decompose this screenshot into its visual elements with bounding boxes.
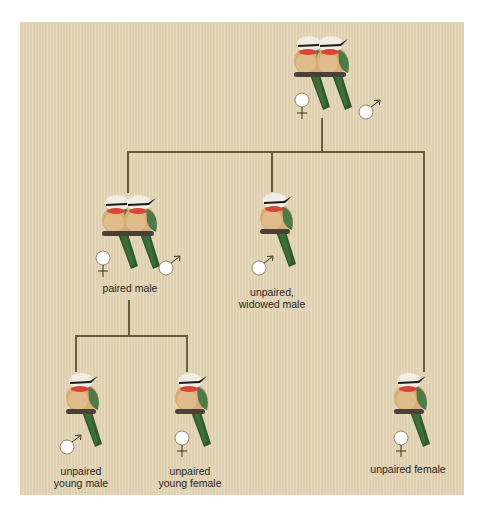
connector-to-young-female xyxy=(186,335,188,372)
connector-paired-male-down xyxy=(128,300,130,336)
node-label: paired male xyxy=(103,282,158,294)
node-label-line-1: unpaired xyxy=(61,465,102,477)
male-symbol-icon xyxy=(157,255,183,277)
node-label: unpaired female xyxy=(370,463,445,475)
female-symbol-icon xyxy=(393,430,409,458)
bird-icon xyxy=(312,35,356,111)
male-symbol-icon xyxy=(357,99,383,121)
connector-generation-1-bar xyxy=(127,151,424,153)
connector-to-young-male xyxy=(75,335,77,372)
connector-to-paired-male xyxy=(127,151,129,193)
male-symbol-icon xyxy=(250,255,276,277)
connector-parents-down xyxy=(321,118,323,152)
connector-to-unpaired-female xyxy=(423,151,425,372)
female-symbol-icon xyxy=(294,92,310,120)
node-label-line-2: young male xyxy=(54,477,108,489)
node-label-line-1: unpaired, xyxy=(250,286,294,298)
female-symbol-icon xyxy=(174,430,190,458)
node-label-line-1: unpaired xyxy=(170,465,211,477)
node-label-line-2: widowed male xyxy=(239,298,306,310)
connector-to-widowed-male xyxy=(271,151,273,192)
male-symbol-icon xyxy=(58,434,84,456)
connector-generation-2-bar xyxy=(75,335,187,337)
female-symbol-icon xyxy=(95,250,111,278)
node-label-line-2: young female xyxy=(158,477,221,489)
